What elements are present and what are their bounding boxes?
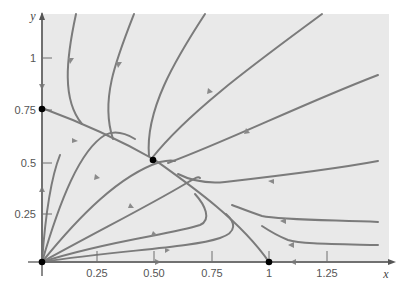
x-axis-arrow-icon xyxy=(388,259,396,265)
x-axis-label: x xyxy=(382,267,389,281)
x-tick-label: 0.75 xyxy=(201,267,222,279)
plot-background xyxy=(42,14,389,262)
equilibrium-interior xyxy=(150,157,157,164)
y-tick-label: 0.75 xyxy=(15,104,36,116)
equilibrium-origin xyxy=(39,259,46,266)
equilibrium-x-axis xyxy=(266,259,273,266)
equilibrium-y-axis xyxy=(39,106,46,113)
y-tick-label: 0.25 xyxy=(15,208,36,220)
y-axis-label: y xyxy=(29,9,36,23)
x-tick-label: 0.25 xyxy=(86,267,107,279)
y-tick-label: 0.5 xyxy=(21,157,36,169)
x-tick-label: 1 xyxy=(266,267,272,279)
x-tick-label: 1.25 xyxy=(316,267,337,279)
x-tick-label: 0.50 xyxy=(143,267,164,279)
phase-portrait: 0.25 0.50 0.75 1 1.25 0.25 0.5 0.75 1 x … xyxy=(0,0,407,296)
y-tick-label: 1 xyxy=(30,52,36,64)
